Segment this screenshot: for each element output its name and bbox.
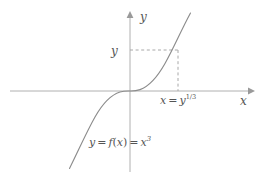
x-axis-label: x: [240, 95, 247, 107]
y-tick-label-text: y: [111, 44, 118, 58]
inverse-equals: =: [166, 94, 179, 107]
y-axis-label-text: y: [140, 10, 147, 24]
function-equals-2: =: [127, 136, 140, 149]
inverse-annotation: x=y1/3: [160, 95, 196, 106]
function-exponent: 3: [147, 135, 151, 143]
inverse-exponent: 1/3: [186, 93, 197, 101]
x-axis-label-text: x: [240, 94, 247, 108]
function-annotation: y=f(x)=x3: [89, 137, 151, 148]
y-axis-label: y: [140, 11, 147, 23]
y-tick-label: y: [111, 45, 118, 57]
x-axis-arrow-icon: [248, 88, 255, 95]
y-axis-arrow-icon: [127, 11, 134, 18]
cubic-function-figure: y x y x=y1/3 y=f(x)=x3: [0, 0, 259, 172]
function-equals-1: =: [95, 136, 108, 149]
